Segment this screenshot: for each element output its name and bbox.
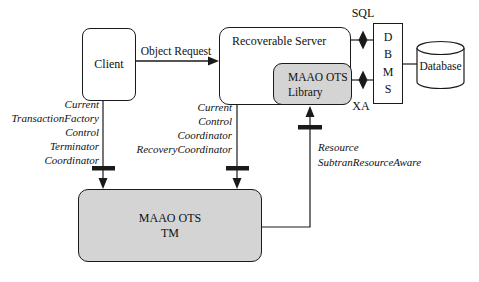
interface-name: Coordinator <box>122 128 232 142</box>
xa-diamond <box>359 71 368 90</box>
maao-ots-tm-label-line2: TM <box>161 226 179 241</box>
interface-name: Control <box>0 125 99 139</box>
sql-diamond <box>359 31 368 50</box>
maao-ots-library-label-line2: Library <box>288 85 351 100</box>
maao-ots-library-label-line1: MAAO OTS <box>288 70 351 85</box>
dbms-letter-m: M <box>383 65 394 80</box>
interface-name: Resource <box>318 140 468 155</box>
maao-ots-library-node: MAAO OTS Library <box>273 63 352 105</box>
client-tm-interface-list: Current TransactionFactory Control Termi… <box>0 97 99 167</box>
dbms-letter-s: S <box>385 82 392 97</box>
xa-label: XA <box>345 99 377 114</box>
tm-library-arrowhead <box>306 106 315 117</box>
object-request-arrowhead <box>208 57 219 66</box>
maao-ots-tm-node: MAAO OTS TM <box>78 189 262 262</box>
interface-name: Current <box>122 100 232 114</box>
interface-name: Coordinator <box>0 153 99 167</box>
client-tm-arrowhead <box>99 178 108 189</box>
sql-label: SQL <box>347 6 379 21</box>
server-tm-arrowhead <box>233 178 242 189</box>
maao-ots-tm-label-line1: MAAO OTS <box>139 211 201 226</box>
dbms-node: D B M S <box>373 23 403 104</box>
tm-library-interface-list: Resource SubtranResourceAware <box>318 140 468 170</box>
dbms-letter-b: B <box>384 47 392 62</box>
interface-name: RecoveryCoordinator <box>122 142 232 156</box>
tm-library-interface-tick <box>298 125 322 130</box>
recoverable-server-label: Recoverable Server <box>232 34 326 49</box>
interface-name: Terminator <box>0 139 99 153</box>
architecture-diagram: Client Recoverable Server MAAO OTS Libra… <box>0 0 479 282</box>
interface-name: SubtranResourceAware <box>318 155 468 170</box>
server-tm-interface-list: Current Control Coordinator RecoveryCoor… <box>122 100 232 156</box>
database-label: Database <box>417 60 464 72</box>
client-label: Client <box>94 57 123 72</box>
object-request-label: Object Request <box>133 45 219 57</box>
interface-name: Control <box>122 114 232 128</box>
interface-name: Current <box>0 97 99 111</box>
interface-name: TransactionFactory <box>0 111 99 125</box>
client-node: Client <box>82 28 136 101</box>
tm-library-line <box>262 116 310 227</box>
dbms-letter-d: D <box>384 30 393 45</box>
server-tm-interface-tick <box>226 166 249 171</box>
